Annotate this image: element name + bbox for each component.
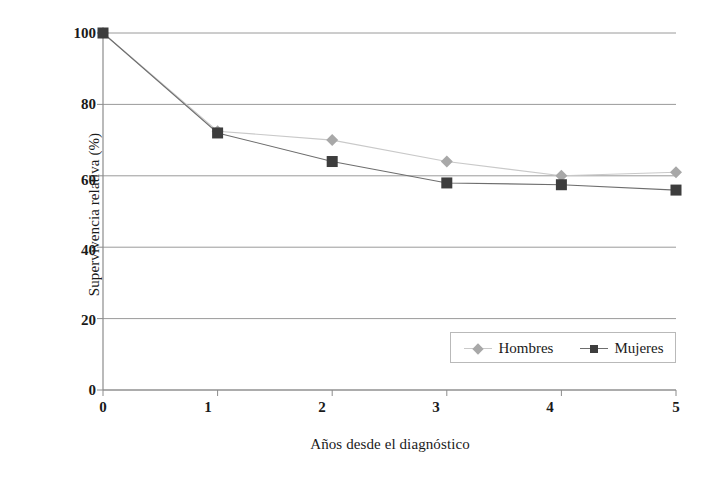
marker-mujeres-0 (98, 28, 109, 39)
marker-mujeres-3 (441, 177, 452, 188)
marker-mujeres-4 (556, 179, 567, 190)
marker-mujeres-5 (671, 185, 682, 196)
marker-hombres-5 (670, 166, 682, 178)
relative-survival-chart: Supervivencia relativa (%) Años desde el… (0, 0, 704, 478)
marker-mujeres-2 (327, 156, 338, 167)
legend-line-hombres (464, 343, 492, 355)
diamond-marker-icon (473, 343, 484, 354)
plot-area (0, 0, 704, 478)
legend-entry-hombres: Hombres (464, 341, 553, 356)
legend-label-hombres: Hombres (498, 341, 553, 356)
line-mujeres (103, 33, 676, 190)
marker-hombres-3 (441, 156, 453, 168)
legend-entry-mujeres: Mujeres (580, 341, 663, 356)
series-lines (103, 33, 676, 190)
square-marker-icon (590, 345, 598, 353)
legend-line-mujeres (580, 343, 608, 355)
legend: Hombres Mujeres (450, 332, 676, 363)
series-markers (97, 27, 682, 196)
marker-hombres-2 (326, 134, 338, 146)
legend-label-mujeres: Mujeres (614, 341, 663, 356)
marker-mujeres-1 (212, 127, 223, 138)
